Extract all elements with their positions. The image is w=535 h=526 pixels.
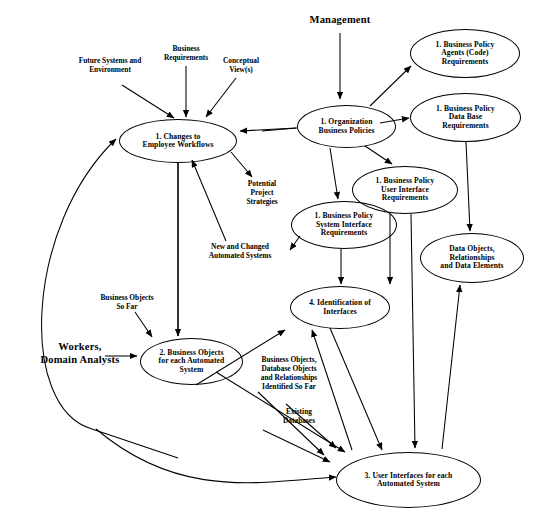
label-new-and-changed-automated-systems: New and Changed Automated Systems bbox=[193, 243, 287, 261]
edge-org-policies-to-changes bbox=[240, 128, 296, 131]
edge-si-req-to-new-changed-systems bbox=[290, 236, 300, 250]
node-data-objects-relationships-data-elements[interactable]: Data Objects, Relationships and Data Ele… bbox=[420, 233, 524, 283]
node-line: Requirements bbox=[315, 229, 374, 238]
edge-existing-databases-to-user-interfaces bbox=[263, 430, 330, 462]
edge-identification-to-user-interfaces bbox=[330, 328, 382, 450]
label-future-systems-and-environment: Future Systems and Environment bbox=[62, 57, 158, 75]
edge-ui-req-to-user-interfaces bbox=[411, 214, 415, 448]
node-line: Requirements bbox=[436, 58, 495, 67]
label-business-objects-database-objects-identified: Business Objects, Database Objects and R… bbox=[243, 356, 335, 392]
node-line: Requirements bbox=[376, 194, 435, 203]
edge-changes-to-potential-strategies bbox=[231, 152, 252, 177]
edge-org-policies-to-ui-req bbox=[365, 146, 392, 164]
edge-org-policies-left-stub bbox=[262, 128, 297, 131]
node-line: Business Policies bbox=[319, 127, 375, 136]
node-line: System bbox=[159, 366, 225, 375]
edge-workers-curve-tail bbox=[92, 429, 178, 458]
edge-database-req-to-data-objects bbox=[466, 142, 470, 231]
edge-workers-to-changes-curve bbox=[42, 139, 116, 429]
edge-new-changed-systems-to-changes bbox=[192, 160, 226, 241]
node-identification-of-interfaces[interactable]: 4. Identification of Interfaces bbox=[290, 286, 390, 329]
node-line: Automated System bbox=[365, 480, 453, 489]
node-business-policy-data-base-requirements[interactable]: 1. Business Policy Data Base Requirement… bbox=[410, 93, 521, 142]
label-business-objects-so-far: Business Objects So Far bbox=[84, 294, 170, 312]
edge-conceptual-views-to-changes bbox=[206, 78, 236, 117]
label-potential-project-strategies: Potential Project Strategies bbox=[233, 180, 291, 207]
edge-user-interfaces-to-data-objects bbox=[442, 285, 460, 449]
node-user-interfaces-each-automated-system[interactable]: 3. User Interfaces for each Automated Sy… bbox=[336, 452, 481, 508]
edge-workers-curve-to-user-interfaces bbox=[96, 429, 336, 483]
edge-org-policies-to-agents-code bbox=[370, 66, 411, 106]
node-business-policy-system-interface-requirements[interactable]: 1. Business Policy System Interface Requ… bbox=[291, 201, 397, 249]
node-line: Requirements bbox=[436, 122, 495, 131]
label-workers-domain-analysts: Workers, Domain Analysts bbox=[27, 341, 133, 366]
diagram-canvas: 1. Changes to Employee Workflows 1. Orga… bbox=[0, 0, 535, 526]
node-business-objects-each-automated-system[interactable]: 2. Business Objects for each Automated S… bbox=[140, 338, 243, 385]
node-organization-business-policies[interactable]: 1. Organization Business Policies bbox=[297, 105, 396, 148]
node-changes-employee-workflows[interactable]: 1. Changes to Employee Workflows bbox=[119, 119, 237, 163]
node-line: and Data Elements bbox=[440, 262, 503, 271]
label-management: Management bbox=[290, 14, 390, 27]
edge-future-systems-to-changes bbox=[122, 85, 174, 118]
node-line: Interfaces bbox=[309, 308, 371, 317]
label-existing-databases: Existing Databases bbox=[264, 408, 334, 426]
edge-business-objects-sofar-to-bo-node bbox=[135, 312, 152, 337]
edge-org-policies-to-si-req bbox=[330, 148, 338, 199]
node-business-policy-agents-code-requirements[interactable]: 1. Business Policy Agents (Code) Require… bbox=[410, 29, 520, 78]
node-line: Employee Workflows bbox=[142, 141, 213, 150]
label-conceptual-views: Conceptual View(s) bbox=[210, 57, 272, 75]
